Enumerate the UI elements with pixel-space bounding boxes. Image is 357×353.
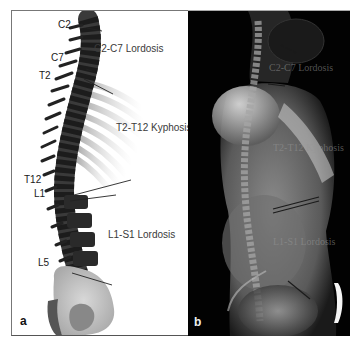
region-label-cervical-lordosis: C2-C7 Lordosis bbox=[94, 44, 163, 54]
vertebra-label-t2: T2 bbox=[39, 71, 51, 81]
vertebra-label-l5: L5 bbox=[38, 258, 49, 268]
xray-region-label-cervical-lordosis: C2-C7 Lordosis bbox=[269, 63, 333, 73]
panel-a-letter: a bbox=[20, 315, 27, 327]
vertebra-label-t12: T12 bbox=[24, 175, 41, 185]
vertebra-label-c2: C2 bbox=[58, 20, 71, 30]
spine-illustration-graphic bbox=[12, 11, 188, 335]
spine-sagittal-alignment-figure: C2 C7 T2 T12 L1 L5 C2-C7 Lordosis T2-T12… bbox=[0, 0, 357, 353]
pelvis bbox=[47, 266, 114, 335]
panel-a-spine-illustration: C2 C7 T2 T12 L1 L5 C2-C7 Lordosis T2-T12… bbox=[11, 10, 188, 336]
region-label-lumbar-lordosis: L1-S1 Lordosis bbox=[108, 230, 175, 240]
vertebra-label-c7: C7 bbox=[51, 53, 64, 63]
xray-region-label-lumbar-lordosis: L1-S1 Lordosis bbox=[273, 237, 336, 247]
xray-region-label-thoracic-kyphosis: T2-T12 Kyphosis bbox=[273, 143, 344, 153]
xray-image bbox=[188, 11, 350, 336]
region-label-thoracic-kyphosis: T2-T12 Kyphosis bbox=[116, 123, 188, 133]
vertebra-label-l1: L1 bbox=[34, 189, 45, 199]
panel-b-letter: b bbox=[194, 316, 201, 328]
panel-b-lateral-xray: C2-C7 Lordosis T2-T12 Kyphosis L1-S1 Lor… bbox=[188, 10, 350, 336]
